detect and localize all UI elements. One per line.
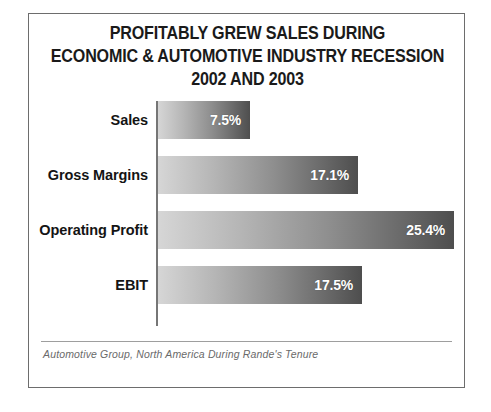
bar-gross-margins: 17.1% [158, 156, 358, 194]
bar-value-label-gross-margins: 17.1% [310, 167, 349, 183]
bar-operating-profit: 25.4% [158, 211, 454, 249]
chart-title: PROFITABLY GREW SALES DURING ECONOMIC & … [29, 22, 466, 91]
bar-row-ebit: EBIT 17.5% [29, 266, 466, 304]
bar-value-label-ebit: 17.5% [314, 277, 353, 293]
plot-area: Sales 7.5% Gross Margins 17.1% Opera [29, 99, 466, 329]
bar-value-label-sales: 7.5% [210, 112, 241, 128]
bar-sales: 7.5% [158, 101, 250, 139]
chart-title-line-1: PROFITABLY GREW SALES DURING [46, 22, 448, 45]
bar-category-label-ebit: EBIT [115, 277, 148, 293]
chart-title-line-2: ECONOMIC & AUTOMOTIVE INDUSTRY RECESSION [46, 45, 448, 68]
chart-frame: PROFITABLY GREW SALES DURING ECONOMIC & … [28, 13, 465, 388]
bar-fill-gross-margins: 17.1% [158, 156, 358, 194]
footnote-divider [41, 341, 452, 342]
bar-category-label-gross-margins: Gross Margins [48, 167, 148, 183]
bar-fill-sales: 7.5% [158, 101, 250, 139]
bar-row-operating-profit: Operating Profit 25.4% [29, 211, 466, 249]
bar-fill-operating-profit: 25.4% [158, 211, 454, 249]
bar-ebit: 17.5% [158, 266, 362, 304]
chart-title-line-3: 2002 AND 2003 [46, 68, 448, 91]
chart-canvas: PROFITABLY GREW SALES DURING ECONOMIC & … [0, 0, 491, 412]
footnote-text: Automotive Group, North America During R… [43, 348, 318, 360]
bar-value-label-operating-profit: 25.4% [406, 222, 445, 238]
bar-category-label-sales: Sales [111, 112, 148, 128]
bar-row-gross-margins: Gross Margins 17.1% [29, 156, 466, 194]
bar-category-label-operating-profit: Operating Profit [39, 222, 148, 238]
bar-row-sales: Sales 7.5% [29, 101, 466, 139]
bar-fill-ebit: 17.5% [158, 266, 362, 304]
